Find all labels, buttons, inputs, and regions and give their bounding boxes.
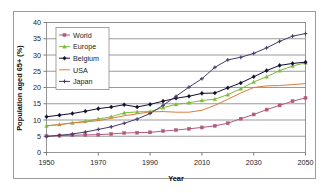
series-marker-belgium-1980: [122, 103, 126, 107]
series-marker-belgium-1955: [58, 113, 62, 117]
x-tick-label-2010: 2010: [194, 158, 210, 167]
series-marker-belgium-2025: [239, 81, 243, 85]
series-marker-japan-1980: [122, 121, 126, 125]
series-marker-belgium-1965: [84, 109, 88, 113]
series-marker-world-1975: [110, 132, 113, 135]
series-marker-world-2050: [304, 96, 307, 99]
series-marker-belgium-1960: [71, 111, 75, 115]
series-marker-world-2000: [174, 129, 177, 132]
series-marker-belgium-1975: [110, 105, 114, 109]
legend-label-usa: USA: [73, 66, 88, 75]
y-tick-label-5: 5: [37, 132, 41, 141]
series-marker-belgium-2010: [200, 91, 204, 95]
x-tick-label-1950: 1950: [39, 158, 55, 167]
series-marker-world-2025: [239, 117, 242, 120]
series-marker-world-2040: [278, 104, 281, 107]
series-marker-world-1990: [149, 131, 152, 134]
x-axis-ticks: 195019701990201020302050: [39, 153, 314, 167]
series-marker-japan-2040: [278, 40, 282, 44]
series-marker-belgium-1950: [45, 115, 49, 119]
series-marker-world-2045: [291, 100, 294, 103]
y-tick-label-20: 20: [33, 83, 41, 92]
series-marker-world-2005: [187, 127, 190, 130]
y-tick-label-35: 35: [33, 34, 41, 43]
series-marker-belgium-1985: [135, 105, 139, 109]
y-tick-label-0: 0: [37, 148, 41, 157]
series-marker-belgium-2035: [265, 69, 269, 73]
series-marker-world-2015: [213, 124, 216, 127]
x-tick-label-1990: 1990: [142, 158, 158, 167]
y-tick-label-25: 25: [33, 67, 41, 76]
series-marker-japan-2045: [291, 34, 295, 38]
series-marker-japan-2025: [239, 55, 243, 59]
x-tick-label-2050: 2050: [298, 158, 314, 167]
series-marker-belgium-2015: [213, 91, 217, 95]
series-marker-world-2030: [252, 113, 255, 116]
chart-legend: WorldEuropeBelgiumUSAJapan: [56, 28, 109, 90]
population-aging-line-chart: 0510152025303540 19501970199020102030205…: [0, 0, 328, 193]
series-marker-belgium-2020: [226, 86, 230, 90]
y-tick-label-15: 15: [33, 99, 41, 108]
series-marker-belgium-1990: [148, 102, 152, 106]
series-marker-belgium-1970: [97, 107, 101, 111]
legend-label-world: World: [73, 31, 92, 40]
y-axis-ticks: 0510152025303540: [33, 18, 47, 157]
legend-marker-world: [63, 33, 66, 36]
y-tick-label-30: 30: [33, 51, 41, 60]
series-marker-world-2035: [265, 108, 268, 111]
series-marker-world-2020: [226, 122, 229, 125]
series-marker-world-1980: [123, 131, 126, 134]
series-marker-world-1970: [97, 133, 100, 136]
series-marker-belgium-2045: [291, 61, 295, 65]
y-tick-label-40: 40: [33, 18, 41, 27]
legend-label-europe: Europe: [73, 42, 96, 51]
series-marker-world-2010: [200, 126, 203, 129]
x-axis-title: Year: [168, 174, 184, 183]
series-marker-world-1985: [136, 131, 139, 134]
series-marker-world-1995: [162, 130, 165, 133]
series-marker-japan-2035: [265, 46, 269, 50]
y-axis-title: Population aged 65+ (%): [15, 45, 24, 131]
series-marker-japan-1975: [109, 125, 113, 129]
series-marker-belgium-2005: [187, 94, 191, 98]
x-tick-label-1970: 1970: [90, 158, 106, 167]
series-marker-belgium-2030: [252, 75, 256, 79]
chart-canvas: 0510152025303540 19501970199020102030205…: [0, 0, 328, 193]
series-marker-belgium-2040: [278, 63, 282, 67]
series-marker-belgium-1995: [161, 99, 165, 103]
legend-label-japan: Japan: [73, 77, 93, 86]
x-tick-label-2030: 2030: [246, 158, 262, 167]
series-marker-japan-1970: [96, 128, 100, 132]
series-marker-japan-2050: [304, 32, 308, 36]
legend-label-belgium: Belgium: [73, 54, 99, 63]
y-tick-label-10: 10: [33, 116, 41, 125]
